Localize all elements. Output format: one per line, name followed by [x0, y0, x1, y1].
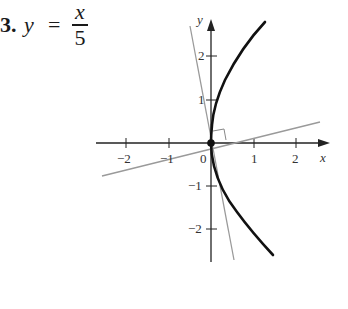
y-axis-arrow-icon: [207, 19, 215, 31]
graph: −2 −1 0 1 2 x 2 1 −1 −2 y: [0, 0, 348, 309]
x-tick-label: −1: [160, 151, 174, 166]
y-tick-label: 1: [198, 92, 205, 107]
x-tick-label: 1: [251, 151, 258, 166]
origin-point: [207, 139, 215, 147]
x-tick-label: −2: [117, 151, 131, 166]
x-tick-label: 2: [292, 151, 299, 166]
y-tick-label: 2: [198, 48, 205, 63]
x-tick-label: 0: [200, 151, 207, 166]
y-tick-label: −2: [188, 221, 202, 236]
x-axis-arrow-icon: [318, 139, 330, 147]
curve: [211, 22, 273, 255]
y-axis-label: y: [195, 12, 203, 27]
x-axis-label: x: [319, 150, 326, 165]
right-angle-marker: [213, 129, 226, 140]
y-tick-label: −1: [188, 178, 202, 193]
